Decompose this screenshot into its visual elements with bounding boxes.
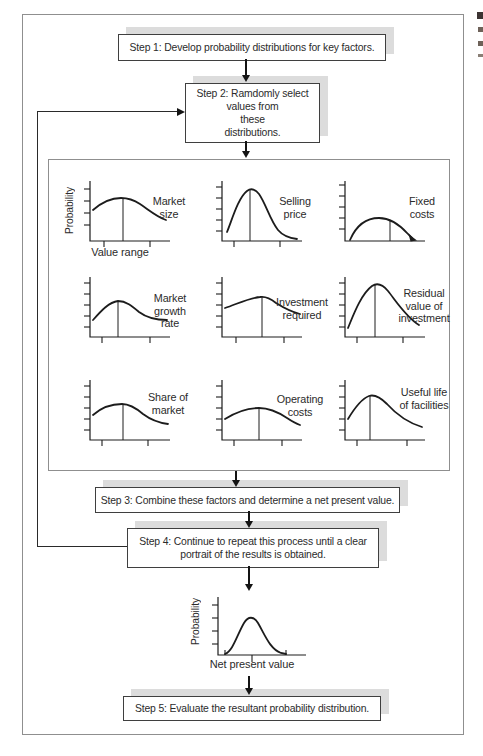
label-market-size: Market size <box>124 195 214 220</box>
label-selling-price: Selling price <box>250 195 340 220</box>
step2-box: Step 2: Ramdomly select values from thes… <box>185 83 320 143</box>
cropped-text-fragment <box>478 54 483 57</box>
factor-chart-share-of-market <box>78 376 182 458</box>
result-xlabel-net-present-value: Net present value <box>192 658 312 670</box>
cropped-text-fragment <box>478 41 483 46</box>
feedback-loop-arrowhead <box>177 108 185 116</box>
label-share-of-market: Share of market <box>123 391 213 416</box>
label-residual-value: Residual value of investment <box>384 287 464 325</box>
cropped-text-fragment <box>478 27 483 32</box>
result-ylabel-probability: Probability <box>190 590 201 654</box>
label-fixed-costs: Fixed costs <box>377 195 467 220</box>
cropped-text-fragment <box>477 12 483 19</box>
feedback-loop-bottom-segment <box>37 546 127 547</box>
feedback-loop-vertical-segment <box>37 111 38 547</box>
step5-box: Step 5: Evaluate the resultant probabili… <box>123 696 381 721</box>
label-operating-costs: Operating costs <box>255 393 345 418</box>
feedback-loop-top-segment <box>37 111 177 112</box>
figure-canvas: Step 1: Develop probability distribution… <box>0 0 483 756</box>
label-useful-life: Useful life of facilities <box>384 386 464 411</box>
step4-box: Step 4: Continue to repeat this process … <box>127 528 379 568</box>
factor-ylabel-probability: Probability <box>64 176 75 246</box>
label-investment-required: Investment required <box>257 296 347 321</box>
step3-box: Step 3: Combine these factors and determ… <box>95 487 400 513</box>
label-market-growth-rate: Market growth rate <box>125 292 215 330</box>
step1-box: Step 1: Develop probability distribution… <box>118 34 386 61</box>
factor-xlabel-value-range: Value range <box>75 246 165 258</box>
